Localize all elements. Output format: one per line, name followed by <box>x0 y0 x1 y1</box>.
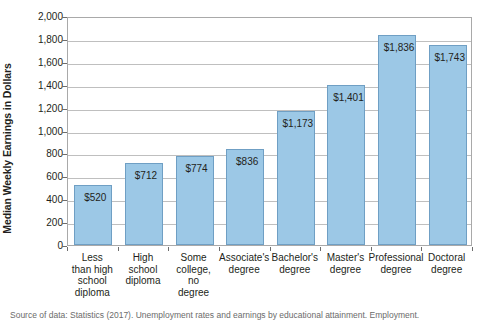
y-axis-tick-label: 1,200 <box>18 104 63 114</box>
y-axis-title: Median Weekly Earnings in Dollars <box>0 34 14 263</box>
y-axis-tick-label: 200 <box>18 218 63 228</box>
y-axis-tick-label: 2,000 <box>18 12 63 22</box>
x-axis-category-line: diploma <box>63 287 122 299</box>
bar-value-label: $836 <box>216 155 279 168</box>
bar[interactable] <box>327 85 365 245</box>
source-caption: Source of data: Statistics (2017). Unemp… <box>10 310 478 320</box>
y-axis-tick-label: 1,000 <box>18 127 63 137</box>
x-axis-category-line: degree <box>417 264 476 276</box>
x-axis-tick-mark <box>472 247 473 251</box>
y-axis-tick-label: 1,800 <box>18 35 63 45</box>
y-axis-tick-label: 400 <box>18 195 63 205</box>
x-axis-tick-mark <box>320 247 321 251</box>
x-axis-tick-mark <box>421 247 422 251</box>
x-axis-category-line: no <box>164 275 223 287</box>
plot-area: $520$712$774$836$1,173$1,401$1,836$1,743 <box>67 17 472 246</box>
bar[interactable] <box>429 45 467 245</box>
y-axis-tick-label: 600 <box>18 172 63 182</box>
bar[interactable] <box>277 111 315 245</box>
plot-inner: $520$712$774$836$1,173$1,401$1,836$1,743 <box>68 18 471 245</box>
x-axis-category-line: degree <box>164 287 223 299</box>
x-axis-tick-mark <box>219 247 220 251</box>
bar[interactable] <box>378 35 416 245</box>
y-axis-tick-label: 800 <box>18 149 63 159</box>
x-axis-tick-mark <box>118 247 119 251</box>
y-axis-tick-label: 0 <box>18 241 63 251</box>
bar-value-label: $1,743 <box>418 51 481 64</box>
x-axis-tick-mark <box>67 247 68 251</box>
bar-value-label: $1,401 <box>317 91 380 104</box>
y-axis-tick-label: 1,400 <box>18 81 63 91</box>
bar-value-label: $1,173 <box>267 117 330 130</box>
x-axis-category-line: Doctoral <box>417 252 476 264</box>
x-axis-tick-mark <box>168 247 169 251</box>
y-axis-tick-label: 1,600 <box>18 58 63 68</box>
bar-value-label: $520 <box>64 191 127 204</box>
x-axis-tick-mark <box>371 247 372 251</box>
x-axis-category-label: Doctoraldegree <box>417 252 476 275</box>
x-axis-tick-mark <box>270 247 271 251</box>
